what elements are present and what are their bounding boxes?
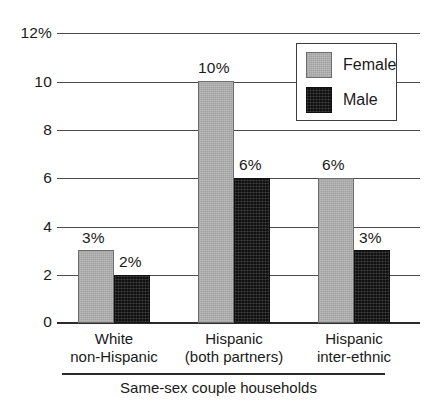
bar-label-male-white-non-hispanic: 2% xyxy=(119,253,142,271)
legend: Female Male xyxy=(296,43,397,121)
bar-chart: 12% 10 8 6 4 2 0 3% 2% 10% 6% 6% 3% Fema… xyxy=(0,0,437,407)
bar-label-female-hispanic-both-partners: 10% xyxy=(198,59,230,77)
legend-item-female[interactable]: Female xyxy=(306,52,396,78)
category-label-line1: Hispanic xyxy=(164,330,304,348)
chart-caption: Same-sex couple households xyxy=(0,379,437,396)
ytick-label-8: 8 xyxy=(2,121,52,139)
category-label-line2: inter-ethnic xyxy=(284,348,424,366)
legend-label-male: Male xyxy=(343,91,378,109)
ytick-label-2: 2 xyxy=(2,266,52,284)
axis-group-bracket xyxy=(62,373,385,375)
ytick-label-4: 4 xyxy=(2,218,52,236)
category-label-line2: non-Hispanic xyxy=(44,348,184,366)
bar-female-hispanic-inter-ethnic[interactable] xyxy=(318,178,354,323)
bar-label-female-white-non-hispanic: 3% xyxy=(82,229,105,247)
gridline-8 xyxy=(57,130,420,131)
bar-male-hispanic-both-partners[interactable] xyxy=(234,178,270,323)
category-label-line1: Hispanic xyxy=(284,330,424,348)
category-label-line2: (both partners) xyxy=(164,348,304,366)
bar-label-male-hispanic-both-partners: 6% xyxy=(239,156,262,174)
category-label-white-non-hispanic: White non-Hispanic xyxy=(44,330,184,366)
bar-male-hispanic-inter-ethnic[interactable] xyxy=(354,250,390,323)
ytick-label-6: 6 xyxy=(2,169,52,187)
category-label-line1: White xyxy=(44,330,184,348)
legend-swatch-male-icon xyxy=(306,87,332,113)
category-label-hispanic-both-partners: Hispanic (both partners) xyxy=(164,330,304,366)
bar-label-male-hispanic-inter-ethnic: 3% xyxy=(359,229,382,247)
bar-female-white-non-hispanic[interactable] xyxy=(78,250,114,323)
legend-label-female: Female xyxy=(343,56,396,74)
category-label-hispanic-inter-ethnic: Hispanic inter-ethnic xyxy=(284,330,424,366)
gridline-12 xyxy=(57,33,420,34)
bar-label-female-hispanic-inter-ethnic: 6% xyxy=(322,156,345,174)
ytick-label-0: 0 xyxy=(2,313,52,331)
bar-female-hispanic-both-partners[interactable] xyxy=(198,81,234,323)
ytick-label-10: 10 xyxy=(2,73,52,91)
bar-male-white-non-hispanic[interactable] xyxy=(114,275,150,323)
legend-swatch-female-icon xyxy=(306,52,332,78)
plot-area: 12% 10 8 6 4 2 0 3% 2% 10% 6% 6% 3% Fema… xyxy=(0,0,437,407)
ytick-label-12: 12% xyxy=(2,24,52,42)
legend-item-male[interactable]: Male xyxy=(306,87,378,113)
